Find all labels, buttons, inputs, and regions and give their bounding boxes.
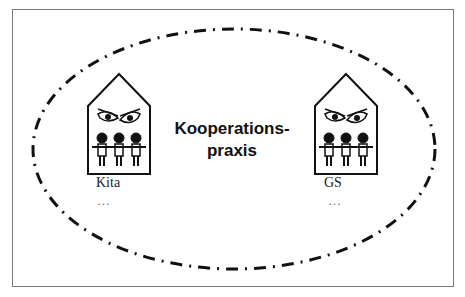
center-title-line1: Kooperations- <box>162 118 302 140</box>
house-icon-gs <box>315 74 377 174</box>
center-title-line2: praxis <box>162 140 302 162</box>
center-title: Kooperations- praxis <box>162 118 302 162</box>
gs-more: … <box>328 193 342 209</box>
kita-label: Kita <box>96 175 120 191</box>
kita-more: … <box>97 193 111 209</box>
house-icon-kita <box>88 74 150 174</box>
gs-label: GS <box>324 175 342 191</box>
